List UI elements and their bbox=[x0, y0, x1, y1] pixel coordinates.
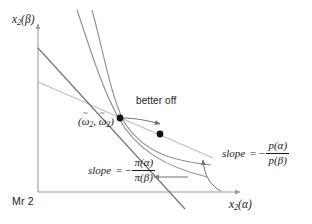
slope-pi-equals: = bbox=[115, 165, 122, 176]
slope-pi-numerator: π(α) bbox=[132, 157, 155, 169]
slope-pi-equation: slope = − π(α) π(β) bbox=[88, 157, 155, 184]
endowment-point-label: (~ω2, ~ω2) bbox=[78, 116, 114, 129]
budget-line-shallow bbox=[38, 82, 213, 158]
slope-p-minus: − bbox=[259, 147, 266, 159]
indifference-curve-inner bbox=[92, 10, 211, 165]
slope-pi-denominator: π(β) bbox=[133, 172, 155, 184]
x-axis-label-arg: (α) bbox=[238, 198, 252, 210]
slope-p-word: slope bbox=[222, 148, 245, 159]
budget-line-steep bbox=[38, 48, 185, 209]
indifference-curve-outer bbox=[77, 10, 207, 177]
diagram-figure: x2(β) x2(α) Mr 2 better off (~ω2, ~ω2) s… bbox=[0, 0, 312, 224]
slope-p-denominator: p(β) bbox=[267, 155, 289, 167]
slope-p-equals: = bbox=[249, 148, 256, 159]
tilde-icon: ~ bbox=[83, 110, 87, 118]
endowment-point bbox=[117, 115, 124, 122]
indifference-curves-group bbox=[77, 10, 211, 177]
slope-p-numerator: p(α) bbox=[266, 140, 289, 152]
endowment-omega-1: ~ω bbox=[82, 116, 90, 127]
corner-caption: Mr 2 bbox=[12, 196, 34, 207]
y-axis-label: x2(β) bbox=[12, 14, 35, 27]
tilde-icon: ~ bbox=[100, 110, 104, 118]
endowment-comma: , bbox=[93, 115, 96, 127]
x-axis-label: x2(α) bbox=[229, 199, 252, 212]
y-axis-label-arg: (β) bbox=[21, 13, 34, 25]
slope-pi-word: slope bbox=[88, 165, 111, 176]
slope-pi-fraction: π(α) π(β) bbox=[132, 157, 155, 184]
slope-p-fraction: p(α) p(β) bbox=[266, 140, 289, 167]
trade-point bbox=[157, 131, 164, 138]
slope-p-equation: slope = − p(α) p(β) bbox=[222, 140, 289, 167]
slope-pi-minus: − bbox=[125, 164, 132, 176]
better-off-label: better off bbox=[136, 96, 176, 106]
diagram-canvas bbox=[0, 0, 312, 224]
endowment-omega-2: ~ω bbox=[99, 116, 107, 127]
endowment-paren-close: ) bbox=[110, 115, 114, 127]
